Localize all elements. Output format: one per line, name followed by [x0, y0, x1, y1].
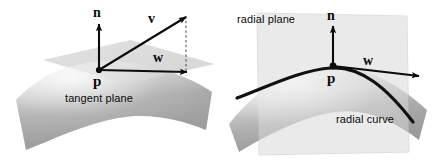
w-vector-label: w [363, 54, 373, 68]
radial-plane-panel: n w p radial plane radial curve [223, 0, 446, 164]
v-vector-label: v [148, 12, 155, 26]
w-vector-label: w [153, 51, 163, 65]
radial-plane-caption: radial plane [237, 14, 295, 25]
point-p-label: p [93, 74, 101, 89]
normal-vector-label: n [327, 9, 335, 23]
point-p-label: p [327, 71, 335, 86]
tangent-plane-graphic [0, 0, 223, 164]
tangent-plane-caption: tangent plane [65, 93, 133, 104]
normal-vector-label: n [93, 6, 101, 20]
figure-root: n v w p tangent plane [0, 0, 446, 164]
point-p-marker [330, 63, 337, 70]
tangent-plane-panel: n v w p tangent plane [0, 0, 223, 164]
radial-curve-caption: radial curve [336, 114, 394, 125]
